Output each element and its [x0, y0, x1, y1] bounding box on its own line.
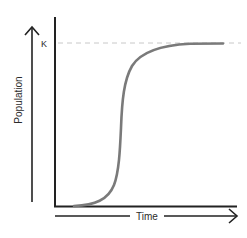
- carrying-capacity-label: K: [41, 39, 47, 49]
- logistic-growth-chart: Population K Time: [0, 0, 247, 238]
- population-curve: [74, 44, 223, 207]
- x-axis-label: Time: [136, 211, 158, 222]
- population-arrow: [25, 27, 39, 202]
- y-axis-label: Population: [13, 76, 24, 123]
